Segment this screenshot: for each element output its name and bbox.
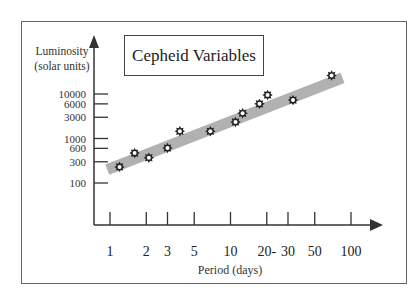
star-marker-center — [241, 111, 245, 115]
x-tick-label: 10 — [211, 244, 251, 260]
star-marker-center — [133, 151, 137, 155]
y-tick-label: 10000 — [36, 88, 86, 100]
star-marker-center — [257, 102, 261, 106]
star-marker-center — [291, 98, 295, 102]
y-tick-label: 100 — [36, 177, 86, 189]
star-marker-center — [118, 165, 122, 169]
x-axis-arrow-icon — [370, 219, 383, 231]
x-axis-label: Period (days) — [170, 263, 290, 278]
star-marker-center — [165, 146, 169, 150]
y-axis-label-line-1: Luminosity — [30, 44, 94, 59]
x-tick-label: 50 — [295, 244, 335, 260]
x-tick-label: 1 — [90, 244, 130, 260]
star-marker-center — [266, 93, 270, 97]
y-axis-label: Luminosity (solar units) — [30, 44, 94, 74]
star-marker-center — [147, 156, 151, 160]
y-tick-label: 3000 — [36, 111, 86, 123]
trend-band — [107, 78, 342, 170]
y-tick-label: 300 — [36, 156, 86, 168]
chart-title: Cepheid Variables — [124, 35, 264, 76]
star-marker-center — [233, 120, 237, 124]
star-marker-center — [208, 129, 212, 133]
y-axis-label-line-2: (solar units) — [30, 59, 94, 74]
star-marker-center — [330, 74, 334, 78]
y-tick-label: 1000 — [36, 133, 86, 145]
x-tick-label: 100 — [331, 244, 371, 260]
x-tick-label: 5 — [174, 244, 214, 260]
star-marker-center — [178, 129, 182, 133]
